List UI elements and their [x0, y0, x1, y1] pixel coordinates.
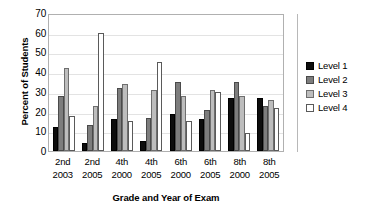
bar-chart: Percent of Students 010203040506070 2nd2… — [0, 0, 389, 224]
legend-item: Level 3 — [306, 87, 386, 101]
x-axis-tick: 4th2005 — [137, 155, 167, 189]
legend-swatch-icon — [306, 104, 314, 112]
x-axis-grade: 6th — [166, 155, 196, 168]
x-axis-title: Grade and Year of Exam — [48, 192, 284, 203]
x-axis-grade: 2nd — [48, 155, 78, 168]
x-axis-year: 2005 — [137, 168, 167, 181]
x-axis-grade: 8th — [225, 155, 255, 168]
x-axis-tick: 2nd2003 — [48, 155, 78, 189]
x-axis-tick-labels: 2nd20032nd20054th20004th20056th20006th20… — [48, 155, 284, 189]
bar — [128, 121, 134, 151]
bar-group — [254, 15, 283, 151]
bar-groups — [49, 15, 283, 151]
legend-divider — [297, 14, 298, 152]
bar-group — [78, 15, 107, 151]
legend-item: Level 4 — [306, 101, 386, 115]
x-axis-grade: 4th — [107, 155, 137, 168]
y-axis-tick: 0 — [41, 147, 46, 157]
x-axis-grade: 4th — [137, 155, 167, 168]
y-axis-tick: 20 — [35, 108, 46, 118]
legend-swatch-icon — [306, 90, 314, 98]
bar — [98, 33, 104, 151]
bar — [186, 121, 192, 151]
y-axis-tick: 50 — [35, 48, 46, 58]
x-axis-year: 2003 — [48, 168, 78, 181]
bar-group — [49, 15, 78, 151]
x-axis-grade: 8th — [255, 155, 285, 168]
y-axis-tick: 10 — [35, 127, 46, 137]
bar — [245, 133, 251, 151]
x-axis-grade: 6th — [196, 155, 226, 168]
x-axis-tick: 8th2000 — [225, 155, 255, 189]
x-axis-tick: 2nd2005 — [78, 155, 108, 189]
x-axis-grade: 2nd — [78, 155, 108, 168]
bar-group — [225, 15, 254, 151]
x-axis-tick: 4th2000 — [107, 155, 137, 189]
y-axis-tick: 30 — [35, 88, 46, 98]
x-axis-year: 2000 — [225, 168, 255, 181]
bar — [69, 116, 75, 151]
bar-group — [195, 15, 224, 151]
legend-label: Level 3 — [318, 89, 347, 99]
legend-item: Level 1 — [306, 59, 386, 73]
x-axis-year: 2000 — [107, 168, 137, 181]
bar — [274, 108, 280, 151]
bar-group — [166, 15, 195, 151]
legend-swatch-icon — [306, 62, 314, 70]
x-axis-year: 2005 — [255, 168, 285, 181]
legend-item: Level 2 — [306, 73, 386, 87]
bar-group — [137, 15, 166, 151]
y-axis-tick: 60 — [35, 29, 46, 39]
x-axis-year: 2000 — [166, 168, 196, 181]
x-axis-tick: 6th2005 — [196, 155, 226, 189]
legend-label: Level 1 — [318, 61, 347, 71]
x-axis-tick: 6th2000 — [166, 155, 196, 189]
legend-label: Level 2 — [318, 75, 347, 85]
legend-label: Level 4 — [318, 103, 347, 113]
bar — [157, 62, 163, 151]
bar — [215, 92, 221, 151]
x-axis-year: 2005 — [78, 168, 108, 181]
legend-swatch-icon — [306, 76, 314, 84]
y-axis-tick: 40 — [35, 68, 46, 78]
y-axis-tick: 70 — [35, 9, 46, 19]
x-axis-tick: 8th2005 — [255, 155, 285, 189]
bar-group — [108, 15, 137, 151]
plot-area — [48, 14, 284, 152]
chart-legend: Level 1Level 2Level 3Level 4 — [306, 59, 386, 115]
x-axis-year: 2005 — [196, 168, 226, 181]
y-axis-tick-labels: 010203040506070 — [22, 0, 46, 224]
